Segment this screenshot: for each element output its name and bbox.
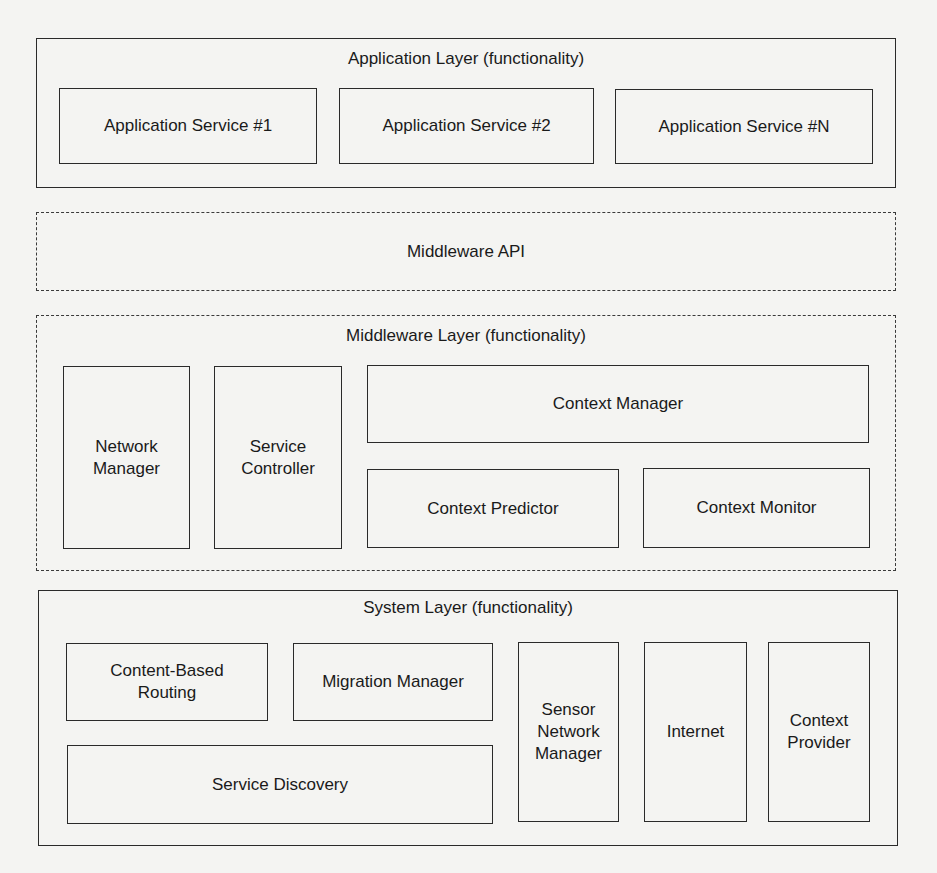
service-controller: Service Controller: [214, 366, 342, 549]
system-layer-title: System Layer (functionality): [39, 598, 897, 618]
context-manager: Context Manager: [367, 365, 869, 443]
application-layer-title: Application Layer (functionality): [37, 49, 895, 69]
middleware-layer-title: Middleware Layer (functionality): [37, 326, 895, 346]
internet: Internet: [644, 642, 747, 822]
network-manager: Network Manager: [63, 366, 190, 549]
application-service-2: Application Service #2: [339, 88, 594, 164]
service-discovery: Service Discovery: [67, 745, 493, 824]
middleware-api: Middleware API: [36, 212, 896, 291]
migration-manager: Migration Manager: [293, 643, 493, 721]
context-monitor: Context Monitor: [643, 468, 870, 548]
context-provider: Context Provider: [768, 642, 870, 822]
content-based-routing: Content-Based Routing: [66, 643, 268, 721]
sensor-network-manager: Sensor Network Manager: [518, 642, 619, 822]
application-service-1: Application Service #1: [59, 88, 317, 164]
application-service-n: Application Service #N: [615, 89, 873, 164]
context-predictor: Context Predictor: [367, 469, 619, 548]
